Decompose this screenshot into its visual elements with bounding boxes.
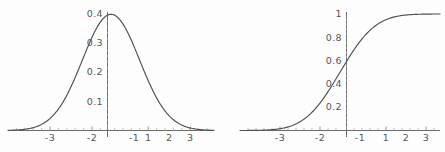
cdf-xtick-label-1: -2 bbox=[315, 132, 325, 143]
cdf-ytick-label-1: 0.4 bbox=[326, 78, 342, 89]
pdf-xtick-label-4: 2 bbox=[166, 132, 172, 143]
cdf-ytick-label-3: 0.8 bbox=[326, 32, 342, 43]
cdf-xtick-label-5: 3 bbox=[423, 132, 429, 143]
cdf-xtick-label-3: 1 bbox=[383, 132, 389, 143]
normal-cdf-svg: -3 -2 -1 1 2 3 0.2 0.4 0.6 0.8 1 bbox=[222, 0, 445, 152]
pdf-xtick-label-0: -3 bbox=[45, 132, 55, 143]
normal-pdf-svg: -3 -2 -1 1 2 3 0.1 0.2 0.3 0.4 bbox=[0, 0, 222, 152]
pdf-ytick-label-0: 0.1 bbox=[87, 96, 103, 107]
pdf-curve-main bbox=[8, 14, 214, 130]
cdf-xtick-label-2: -1 bbox=[355, 132, 365, 143]
cdf-ytick-label-4: 1 bbox=[336, 8, 342, 19]
pdf-xtick-label-3: 1 bbox=[145, 132, 151, 143]
normal-cdf-plot: -3 -2 -1 1 2 3 0.2 0.4 0.6 0.8 1 bbox=[222, 0, 445, 152]
normal-pdf-plot: -3 -2 -1 1 2 3 0.1 0.2 0.3 0.4 bbox=[0, 0, 222, 152]
pdf-ytick-label-3: 0.4 bbox=[87, 8, 103, 19]
pdf-xtick-label-2: -1 bbox=[129, 132, 139, 143]
pdf-xtick-label-1: -2 bbox=[87, 132, 97, 143]
pdf-ytick-label-2: 0.3 bbox=[87, 37, 103, 48]
pdf-ytick-label-1: 0.2 bbox=[87, 66, 103, 77]
cdf-ytick-label-2: 0.6 bbox=[326, 55, 342, 66]
pdf-axes bbox=[8, 12, 214, 137]
pdf-x-major-ticks bbox=[50, 127, 190, 131]
pdf-xtick-label-5: 3 bbox=[187, 132, 193, 143]
cdf-xtick-label-4: 2 bbox=[403, 132, 409, 143]
figure-panel: -3 -2 -1 1 2 3 0.1 0.2 0.3 0.4 bbox=[0, 0, 445, 152]
cdf-x-major-ticks bbox=[280, 127, 426, 131]
cdf-xtick-label-0: -3 bbox=[275, 132, 285, 143]
cdf-ytick-label-0: 0.2 bbox=[326, 101, 342, 112]
